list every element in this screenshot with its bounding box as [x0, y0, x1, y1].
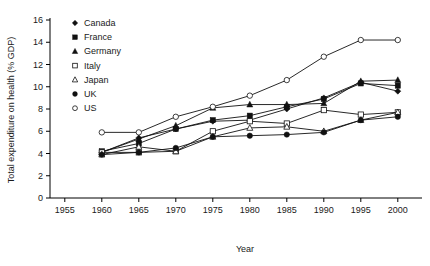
data-point-marker [395, 37, 400, 42]
data-point-marker [395, 77, 401, 83]
data-point-marker [73, 35, 78, 40]
y-tick-label: 16 [33, 15, 43, 25]
y-tick-label: 2 [38, 171, 43, 181]
chart-axes [50, 18, 422, 198]
data-point-marker [321, 108, 326, 113]
legend-label: Canada [84, 18, 116, 28]
y-tick-label: 10 [33, 82, 43, 92]
x-tick-label: 1985 [277, 205, 297, 215]
y-tick-label: 4 [38, 149, 43, 159]
data-point-marker [321, 130, 326, 135]
x-tick-label: 2000 [388, 205, 408, 215]
data-point-marker [210, 118, 215, 123]
legend-item-italy[interactable]: Italy [73, 61, 101, 71]
legend-label: France [84, 32, 112, 42]
y-axis-ticks: 0246810121416 [33, 15, 50, 203]
data-point-marker [247, 113, 252, 118]
data-point-marker [73, 92, 78, 97]
data-point-marker [72, 48, 77, 53]
data-point-marker [210, 104, 215, 109]
x-tick-label: 1960 [92, 205, 112, 215]
data-point-marker [247, 93, 252, 98]
data-point-marker [321, 54, 326, 59]
legend-item-canada[interactable]: Canada [72, 18, 115, 28]
legend-item-uk[interactable]: UK [73, 89, 97, 99]
legend-item-us[interactable]: US [73, 103, 97, 113]
x-tick-label: 1995 [351, 205, 371, 215]
data-point-marker [358, 37, 363, 42]
chart-legend: CanadaFranceGermanyItalyJapanUKUS [72, 18, 121, 113]
data-point-marker [210, 134, 215, 139]
data-point-marker [247, 133, 252, 138]
line-chart: 1955196019651970197519801985199019952000… [0, 0, 430, 266]
chart-series [99, 37, 401, 157]
data-point-marker [73, 106, 78, 111]
x-tick-label: 1965 [129, 205, 149, 215]
x-axis-ticks: 1955196019651970197519801985199019952000 [55, 198, 408, 215]
data-point-marker [247, 119, 252, 124]
x-tick-label: 1970 [166, 205, 186, 215]
y-tick-label: 8 [38, 104, 43, 114]
x-axis-title: Year [236, 244, 254, 254]
x-tick-label: 1980 [240, 205, 260, 215]
data-point-marker [72, 77, 77, 82]
y-tick-label: 0 [38, 193, 43, 203]
data-point-marker [395, 83, 400, 88]
data-point-marker [136, 130, 141, 135]
y-axis-title: Total expenditure on health (% GDP) [6, 37, 16, 184]
x-tick-label: 1955 [55, 205, 75, 215]
y-tick-label: 6 [38, 126, 43, 136]
data-point-marker [395, 114, 400, 119]
legend-label: Italy [84, 61, 101, 71]
data-point-marker [358, 117, 363, 122]
data-point-marker [395, 88, 401, 94]
x-tick-label: 1990 [314, 205, 334, 215]
legend-label: UK [84, 89, 97, 99]
data-point-marker [99, 152, 104, 157]
y-tick-label: 14 [33, 37, 43, 47]
data-point-marker [136, 150, 141, 155]
legend-label: US [84, 103, 97, 113]
series-france [99, 81, 400, 154]
legend-label: Japan [84, 75, 109, 85]
data-point-marker [72, 20, 77, 25]
x-tick-label: 1975 [203, 205, 223, 215]
chart-figure: 1955196019651970197519801985199019952000… [0, 0, 430, 266]
data-point-marker [173, 145, 178, 150]
data-point-marker [73, 63, 78, 68]
data-point-marker [99, 130, 104, 135]
legend-item-france[interactable]: France [73, 32, 112, 42]
data-point-marker [284, 77, 289, 82]
legend-label: Germany [84, 46, 122, 56]
data-point-marker [173, 122, 179, 128]
legend-item-germany[interactable]: Germany [72, 46, 121, 56]
data-point-marker [173, 114, 178, 119]
data-point-marker [284, 132, 289, 137]
legend-item-japan[interactable]: Japan [72, 75, 108, 85]
y-tick-label: 12 [33, 60, 43, 70]
data-point-marker [247, 101, 253, 107]
